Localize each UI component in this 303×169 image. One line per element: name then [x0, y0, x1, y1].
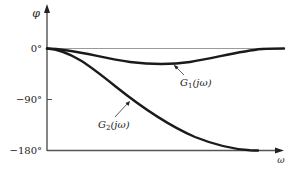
g1-label: G1(jω) — [180, 77, 212, 90]
g2-pointer-line — [115, 104, 127, 117]
y-axis-arrow-icon — [44, 4, 50, 13]
g2-label: G2(jω) — [98, 119, 130, 132]
y-axis-label: φ — [32, 7, 40, 20]
x-axis-label: ω — [277, 155, 285, 165]
x-axis-arrow-icon — [275, 148, 284, 154]
tick-label-minus-180: −180° — [10, 145, 42, 156]
tick-label-0: 0° — [31, 43, 42, 54]
tick-label-minus-90: −90° — [16, 94, 42, 105]
phase-plot: 0° −90° −180° φ ω G1(jω) G2(jω) — [0, 0, 303, 169]
